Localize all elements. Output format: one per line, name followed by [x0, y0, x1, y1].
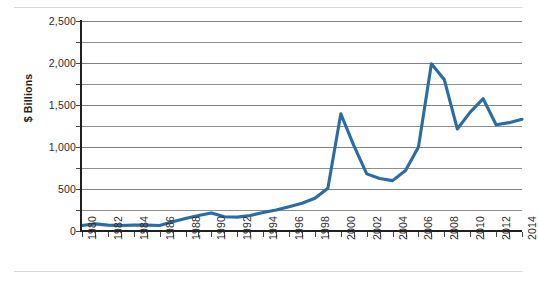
- x-tick-mark-2006: [418, 232, 419, 237]
- y-tick-label-500: 500: [30, 184, 76, 195]
- x-tick-label-1988: 1988: [190, 216, 202, 240]
- x-tick-label-1994: 1994: [267, 216, 279, 240]
- x-tick-label-1982: 1982: [112, 216, 124, 240]
- x-tick-mark-1992: [237, 232, 238, 237]
- y-tick-label-0: 0: [30, 226, 76, 237]
- x-tick-mark-2008: [444, 232, 445, 237]
- y-axis-title: $ Billions: [22, 58, 34, 138]
- data-series-line: [82, 21, 522, 231]
- x-tick-mark-1990: [211, 232, 212, 237]
- x-tick-label-1998: 1998: [319, 216, 331, 240]
- x-tick-mark-2004: [393, 232, 394, 237]
- x-tick-label-2012: 2012: [500, 216, 512, 240]
- x-tick-mark-1994: [263, 232, 264, 237]
- x-tick-mark-2012: [496, 232, 497, 237]
- x-tick-label-1992: 1992: [241, 216, 253, 240]
- x-tick-label-2008: 2008: [448, 216, 460, 240]
- x-tick-label-1980: 1980: [86, 216, 98, 240]
- x-tick-mark-2000: [341, 232, 342, 237]
- x-tick-mark-1980: [82, 232, 83, 237]
- x-tick-mark-2014: [522, 232, 523, 237]
- x-tick-label-1996: 1996: [293, 216, 305, 240]
- y-tick-label-1500: 1,500: [30, 100, 76, 111]
- plot-area: [82, 21, 522, 231]
- x-tick-label-2002: 2002: [371, 216, 383, 240]
- x-tick-mark-2002: [367, 232, 368, 237]
- x-tick-mark-2010: [470, 232, 471, 237]
- x-tick-mark-1984: [134, 232, 135, 237]
- x-tick-label-1986: 1986: [164, 216, 176, 240]
- x-tick-mark-1988: [186, 232, 187, 237]
- page-rule-bottom: [14, 271, 523, 272]
- y-tick-label-2000: 2,000: [30, 58, 76, 69]
- y-axis-spine: [80, 20, 82, 232]
- page-rule-top: [14, 7, 523, 8]
- x-tick-mark-1982: [108, 232, 109, 237]
- y-tick-label-2500: 2,500: [30, 16, 76, 27]
- x-tick-mark-1998: [315, 232, 316, 237]
- x-tick-label-2004: 2004: [397, 216, 409, 240]
- x-tick-label-2014: 2014: [526, 216, 538, 240]
- y-tick-label-1000: 1,000: [30, 142, 76, 153]
- x-tick-label-1990: 1990: [215, 216, 227, 240]
- x-tick-mark-1996: [289, 232, 290, 237]
- x-tick-label-2006: 2006: [422, 216, 434, 240]
- x-tick-label-2000: 2000: [345, 216, 357, 240]
- x-tick-label-1984: 1984: [138, 216, 150, 240]
- x-tick-label-2010: 2010: [474, 216, 486, 240]
- x-tick-mark-1986: [160, 232, 161, 237]
